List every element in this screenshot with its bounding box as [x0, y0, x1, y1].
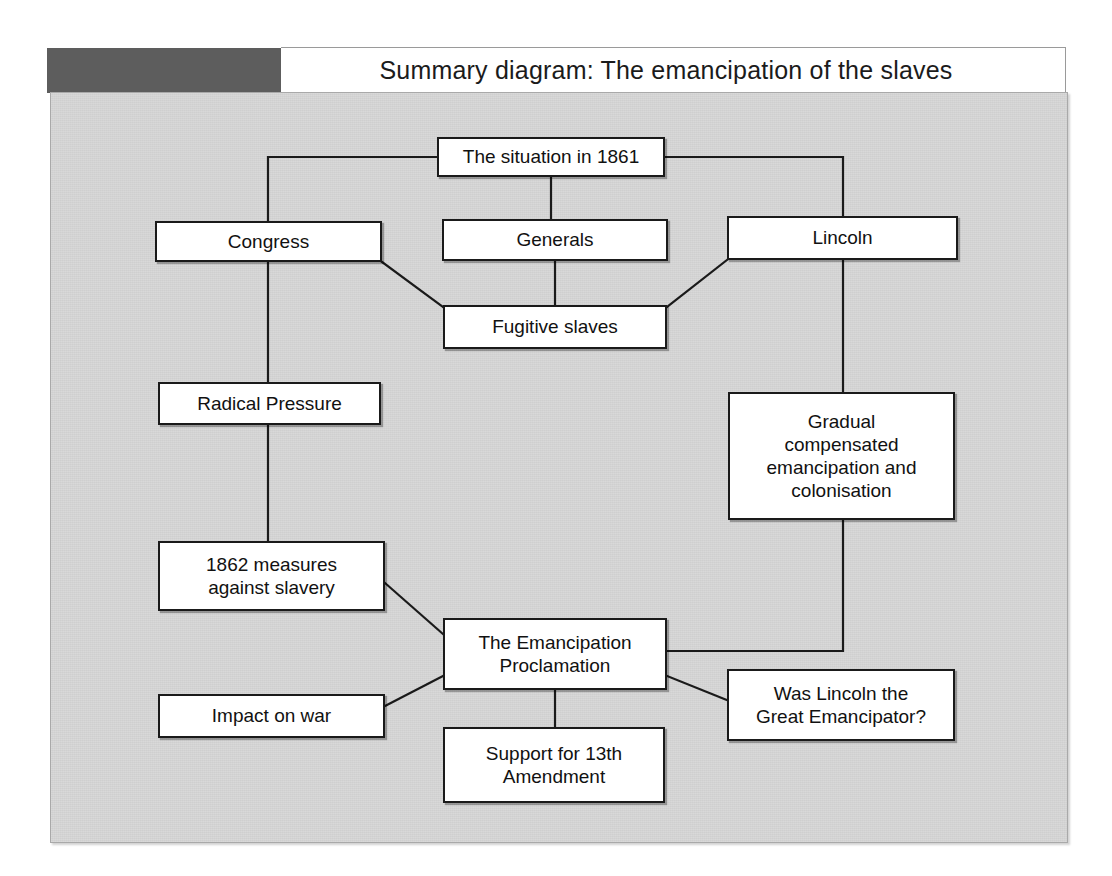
node-label: The situation in 1861	[463, 145, 639, 168]
node-fugitive-slaves[interactable]: Fugitive slaves	[443, 305, 667, 349]
node-label: The Emancipation Proclamation	[478, 631, 631, 677]
header-dark-block	[47, 48, 281, 93]
scanned-page: Summary diagram: The emancipation of the…	[0, 0, 1112, 876]
node-congress[interactable]: Congress	[155, 221, 382, 262]
node-label: Congress	[228, 230, 309, 253]
node-label: Generals	[516, 228, 593, 251]
node-label: Lincoln	[812, 226, 872, 249]
node-label: 1862 measures against slavery	[206, 553, 337, 599]
diagram-title: Summary diagram: The emancipation of the…	[281, 48, 1065, 92]
node-support-for-13th-amendment[interactable]: Support for 13th Amendment	[443, 727, 665, 803]
node-gradual-compensated-emancipation[interactable]: Gradual compensated emancipation and col…	[728, 392, 955, 520]
node-generals[interactable]: Generals	[442, 219, 668, 261]
node-label: Fugitive slaves	[492, 315, 618, 338]
node-radical-pressure[interactable]: Radical Pressure	[158, 382, 381, 425]
header-title-bar: Summary diagram: The emancipation of the…	[281, 47, 1066, 93]
running-head	[700, 0, 1060, 8]
node-lincoln[interactable]: Lincoln	[727, 216, 958, 260]
node-the-situation-in-1861[interactable]: The situation in 1861	[437, 137, 665, 177]
node-label: Impact on war	[212, 704, 331, 727]
node-label: Was Lincoln the Great Emancipator?	[756, 682, 926, 728]
node-label: Gradual compensated emancipation and col…	[767, 410, 917, 503]
node-the-emancipation-proclamation[interactable]: The Emancipation Proclamation	[443, 618, 667, 690]
node-impact-on-war[interactable]: Impact on war	[158, 694, 385, 738]
node-1862-measures-against-slavery[interactable]: 1862 measures against slavery	[158, 541, 385, 611]
node-was-lincoln-the-great-emancipator[interactable]: Was Lincoln the Great Emancipator?	[727, 669, 955, 741]
node-label: Support for 13th Amendment	[486, 742, 622, 788]
node-label: Radical Pressure	[197, 392, 342, 415]
